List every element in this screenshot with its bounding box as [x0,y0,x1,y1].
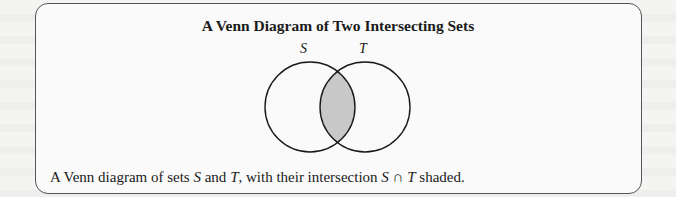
venn-diagram [0,0,676,197]
caption-text: and [201,169,230,185]
caption-text: A Venn diagram of sets [50,169,193,185]
caption-set-s: S [193,169,201,185]
caption-text: , with their intersection [238,169,381,185]
caption-text: shaded. [416,169,465,185]
caption-intersection: S ∩ T [381,169,415,185]
figure-caption: A Venn diagram of sets S and T, with the… [50,169,465,186]
